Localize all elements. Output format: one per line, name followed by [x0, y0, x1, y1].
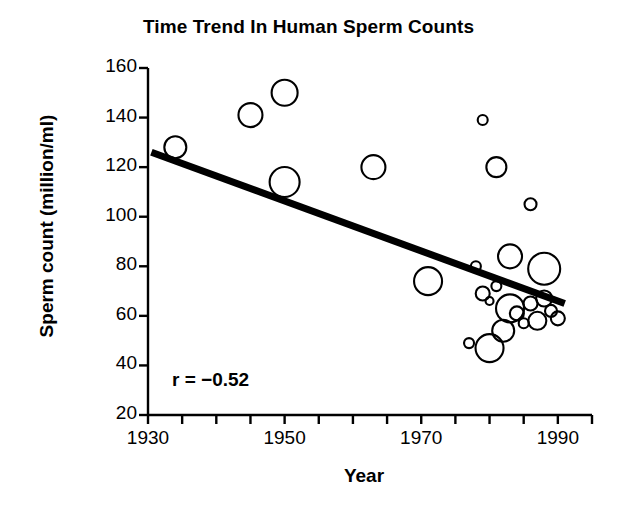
x-tick-label: 1950 — [245, 427, 325, 449]
data-point — [528, 312, 546, 330]
x-axis-label: Year — [148, 465, 580, 487]
x-tick-label: 1990 — [518, 427, 598, 449]
data-point — [525, 198, 537, 210]
correlation-annotation: r = −0.52 — [172, 369, 249, 391]
data-point — [496, 294, 524, 322]
data-point — [528, 253, 560, 285]
axis-lines — [148, 68, 592, 415]
y-tick-label: 60 — [77, 303, 137, 325]
y-tick-label: 100 — [77, 204, 137, 226]
y-tick-label: 160 — [77, 55, 137, 77]
chart-figure: Time Trend In Human Sperm Counts Sperm c… — [0, 0, 617, 507]
y-tick-label: 80 — [77, 253, 137, 275]
data-point — [414, 267, 442, 295]
data-point — [498, 244, 522, 268]
data-point — [464, 338, 474, 348]
data-point — [486, 157, 506, 177]
data-point — [476, 334, 504, 362]
data-point — [551, 311, 565, 325]
data-point — [519, 318, 529, 328]
data-point — [478, 115, 488, 125]
data-point — [238, 103, 262, 127]
y-tick-label: 20 — [77, 402, 137, 424]
y-axis-label: Sperm count (million/ml) — [36, 61, 58, 391]
data-point — [361, 155, 385, 179]
data-point — [270, 167, 300, 197]
x-tick-label: 1930 — [108, 427, 188, 449]
chart-title: Time Trend In Human Sperm Counts — [0, 16, 617, 38]
data-point-group — [164, 80, 565, 362]
data-point — [486, 297, 494, 305]
y-tick-label: 120 — [77, 154, 137, 176]
x-tick-label: 1970 — [381, 427, 461, 449]
y-tick-label: 140 — [77, 105, 137, 127]
y-tick-label: 40 — [77, 352, 137, 374]
data-point — [272, 80, 298, 106]
